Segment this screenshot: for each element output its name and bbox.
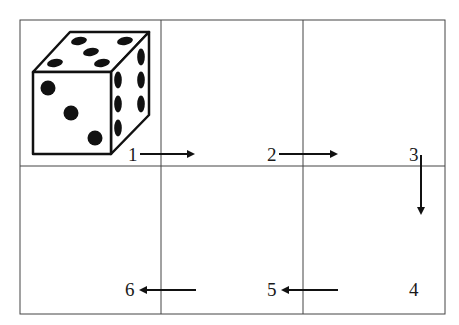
step-4: 4: [409, 279, 419, 300]
step-2-label: 2: [267, 144, 277, 165]
die-icon: [33, 32, 149, 154]
step-2: 2: [267, 144, 336, 165]
step-5-label: 5: [267, 279, 277, 300]
dice-rolling-diagram: 1 2 3 4 5 6: [0, 0, 459, 325]
step-1-label: 1: [128, 144, 138, 165]
step-6-label: 6: [125, 279, 135, 300]
step-3-label: 3: [409, 144, 419, 165]
step-4-label: 4: [409, 279, 419, 300]
step-3: 3: [409, 144, 421, 213]
